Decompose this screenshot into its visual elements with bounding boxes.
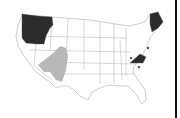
state-delaware-marker — [147, 47, 149, 49]
us-map — [0, 0, 180, 118]
state-maine — [150, 12, 163, 32]
state-west-virginia-marker — [130, 57, 132, 59]
frame-right-border — [175, 0, 177, 118]
state-north-carolina-marker — [138, 66, 140, 68]
